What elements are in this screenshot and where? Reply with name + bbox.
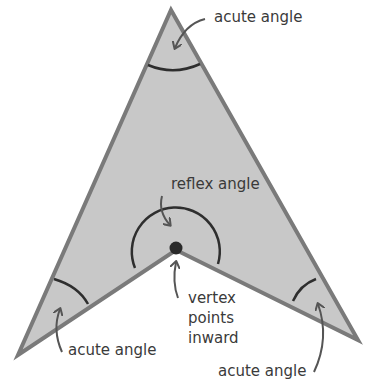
vertex-arrow — [174, 262, 178, 298]
reflex-angle-label: reflex angle — [171, 175, 260, 193]
vertex-label-line3: inward — [188, 329, 239, 347]
concave-polygon-diagram: acute angle reflex angle vertex points i… — [0, 0, 374, 389]
top-acute-angle-label: acute angle — [214, 8, 302, 26]
vertex-label-line1: vertex — [188, 289, 236, 307]
inner-vertex-dot — [170, 242, 183, 255]
bottom-right-acute-angle-label: acute angle — [218, 362, 306, 380]
vertex-label-line2: points — [188, 309, 234, 327]
bottom-left-acute-angle-label: acute angle — [68, 341, 156, 359]
